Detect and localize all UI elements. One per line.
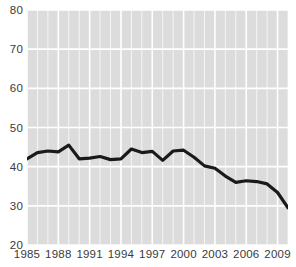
y-tick-label: 70 xyxy=(10,43,23,55)
y-tick-label: 60 xyxy=(10,82,23,94)
x-tick-label: 1985 xyxy=(14,248,40,260)
x-tick-label: 1997 xyxy=(139,248,165,260)
line-chart: 20304050607080 1985198819911994199720002… xyxy=(0,0,296,267)
plot-area xyxy=(27,10,288,245)
y-tick-label: 30 xyxy=(10,200,23,212)
series-line-1 xyxy=(27,145,288,208)
chart-series-layer xyxy=(27,10,288,245)
x-tick-label: 1991 xyxy=(76,248,102,260)
y-axis: 20304050607080 xyxy=(0,0,27,267)
x-tick-label: 1988 xyxy=(45,248,71,260)
y-tick-label: 50 xyxy=(10,122,23,134)
x-tick-label: 2003 xyxy=(202,248,228,260)
y-tick-label: 80 xyxy=(10,4,23,16)
x-axis: 198519881991199419972000200320062009 xyxy=(0,246,296,267)
x-tick-label: 2006 xyxy=(233,248,259,260)
y-tick-label: 40 xyxy=(10,161,23,173)
x-tick-label: 2000 xyxy=(170,248,196,260)
x-tick-label: 1994 xyxy=(108,248,134,260)
x-tick-label: 2009 xyxy=(264,248,290,260)
